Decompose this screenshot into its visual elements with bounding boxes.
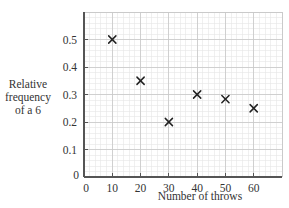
y-axis-label: Relative frequency of a 6 — [0, 78, 56, 117]
x-tick-label: 0 — [83, 182, 89, 194]
y-axis-label-line-3: of a 6 — [0, 104, 56, 117]
y-axis-label-line-1: Relative — [0, 78, 56, 91]
x-tick-label: 10 — [107, 182, 119, 194]
y-tick-label: 0.3 — [63, 89, 78, 101]
y-tick-label: 0.5 — [63, 34, 78, 46]
y-tick-label: 0 — [73, 169, 79, 181]
data-points — [109, 36, 258, 126]
y-axis-label-line-2: frequency — [0, 91, 56, 104]
y-tick-label: 0.2 — [63, 116, 78, 128]
major-grid — [84, 12, 282, 177]
y-tick-label: 0.4 — [63, 61, 78, 73]
x-axis-label: Number of throws — [140, 190, 260, 202]
y-tick-label: 0.1 — [63, 144, 78, 156]
